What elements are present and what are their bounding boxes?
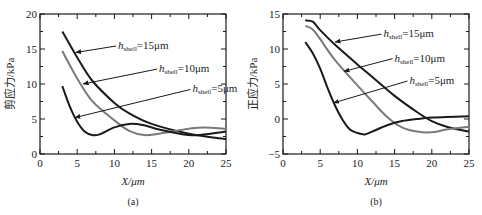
x-tick-label: 15 xyxy=(389,157,401,169)
x-axis-title: X/μm xyxy=(363,175,387,187)
y-axis-title: 正应力/kPa xyxy=(246,58,259,111)
y-tick-label: 5 xyxy=(275,78,281,90)
y-tick-label: 15 xyxy=(26,43,38,55)
annotation-arrow xyxy=(76,46,116,53)
y-tick-label: 0 xyxy=(275,113,281,125)
annotation-arrow xyxy=(344,59,393,72)
annotation-label: hshell=5μm xyxy=(409,74,454,88)
panel-label: (b) xyxy=(370,196,382,208)
annotation-arrow xyxy=(335,34,381,42)
x-tick-label: 5 xyxy=(317,157,323,169)
x-tick-label: 25 xyxy=(221,157,233,169)
figure: 051015202505101520X/μm剪应力/kPa(a)hshell=1… xyxy=(0,0,482,215)
annotation-arrow xyxy=(75,89,191,117)
x-tick-label: 10 xyxy=(352,157,364,169)
annotation-label: hshell=10μm xyxy=(395,52,446,66)
x-tick-label: 20 xyxy=(426,157,438,169)
y-axis-title: 剪应力/kPa xyxy=(3,58,16,111)
y-tick-label: 15 xyxy=(269,8,281,20)
x-tick-label: 15 xyxy=(146,157,158,169)
y-tick-label: 10 xyxy=(269,43,281,55)
annotation-label: hshell=5μm xyxy=(193,82,238,96)
annotation-label: hshell=15μm xyxy=(383,27,434,41)
y-tick-label: 10 xyxy=(26,78,38,90)
x-tick-label: 25 xyxy=(464,157,476,169)
panel-label: (a) xyxy=(127,196,138,208)
x-tick-label: 10 xyxy=(109,157,121,169)
annotation-label: hshell=15μm xyxy=(118,39,169,53)
annotation-arrow xyxy=(83,69,157,84)
x-tick-label: 5 xyxy=(74,157,80,169)
x-tick-label: 0 xyxy=(37,157,43,169)
y-tick-label: 20 xyxy=(26,8,38,20)
chart-a-shear-stress: 051015202505101520X/μm剪应力/kPa(a)hshell=1… xyxy=(3,8,238,208)
x-tick-label: 0 xyxy=(280,157,286,169)
y-tick-label: −5 xyxy=(268,148,280,160)
chart-b-normal-stress: 0510152025−5051015X/μm正应力/kPa(b)hshell=1… xyxy=(246,8,475,208)
y-tick-label: 5 xyxy=(32,113,38,125)
x-axis-title: X/μm xyxy=(120,175,144,187)
annotation-label: hshell=10μm xyxy=(159,62,210,76)
y-tick-label: 0 xyxy=(32,148,38,160)
x-tick-label: 20 xyxy=(183,157,195,169)
